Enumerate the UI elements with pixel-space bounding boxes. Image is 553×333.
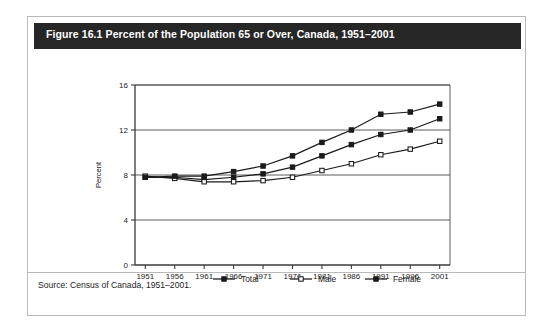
legend-marker <box>299 277 303 281</box>
data-point-marker <box>408 110 412 114</box>
legend-marker <box>374 277 378 281</box>
data-point-marker <box>437 117 441 121</box>
data-point-marker <box>261 164 265 168</box>
data-point-marker <box>261 172 265 176</box>
series-total <box>143 117 442 182</box>
data-point-marker <box>320 154 324 158</box>
x-tick-label: 1986 <box>342 272 360 281</box>
x-tick-label: 1961 <box>195 272 213 281</box>
y-tick-label: 4 <box>124 216 129 225</box>
data-point-marker <box>202 174 206 178</box>
data-point-marker <box>379 153 383 157</box>
line-chart: 0481216Percent19511956196119661971197619… <box>28 51 525 283</box>
chart-legend: TotalMaleFemale <box>213 274 421 283</box>
data-point-marker <box>349 128 353 132</box>
y-axis-title: Percent <box>94 161 103 188</box>
y-tick-label: 8 <box>124 171 129 180</box>
source-note: Source: Census of Canada, 1951–2001. <box>38 280 191 290</box>
data-point-marker <box>320 168 324 172</box>
legend-label: Male <box>318 274 336 283</box>
data-point-marker <box>290 154 294 158</box>
data-point-marker <box>231 175 235 179</box>
source-divider <box>28 272 525 273</box>
data-point-marker <box>143 175 147 179</box>
figure-title: Figure 16.1 Percent of the Population 65… <box>46 28 395 40</box>
y-tick-label: 0 <box>124 261 129 270</box>
data-point-marker <box>231 180 235 184</box>
series-line <box>145 119 439 180</box>
data-point-marker <box>379 112 383 116</box>
data-point-marker <box>437 102 441 106</box>
data-point-marker <box>261 178 265 182</box>
data-point-marker <box>349 142 353 146</box>
data-point-marker <box>437 139 441 143</box>
x-tick-label: 2001 <box>431 272 449 281</box>
data-point-marker <box>290 165 294 169</box>
chart-plot-area: 0481216Percent19511956196119661971197619… <box>28 51 525 283</box>
data-point-marker <box>379 132 383 136</box>
data-point-marker <box>173 174 177 178</box>
figure-container: Figure 16.1 Percent of the Population 65… <box>27 16 526 316</box>
legend-label: Total <box>241 274 259 283</box>
data-point-marker <box>408 128 412 132</box>
data-point-marker <box>202 180 206 184</box>
data-point-marker <box>231 169 235 173</box>
series-male <box>143 139 442 184</box>
y-tick-label: 12 <box>119 126 128 135</box>
data-point-marker <box>290 175 294 179</box>
y-axis-ticks: 0481216 <box>119 81 135 270</box>
figure-title-bar: Figure 16.1 Percent of the Population 65… <box>34 23 521 49</box>
y-tick-label: 16 <box>119 81 128 90</box>
gridlines <box>135 85 450 220</box>
data-point-marker <box>320 140 324 144</box>
legend-label: Female <box>393 274 421 283</box>
legend-marker <box>222 277 226 281</box>
data-point-marker <box>408 147 412 151</box>
data-point-marker <box>349 162 353 166</box>
